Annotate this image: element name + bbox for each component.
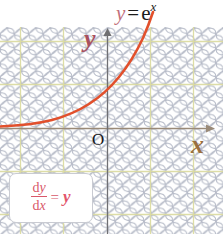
derivative-fraction: dy dx [31, 181, 46, 213]
curve-label-exponent: x [151, 0, 157, 14]
x-axis-label: x [191, 132, 204, 158]
curve-label-equals: = [125, 1, 141, 25]
curve-equation-label: y=ex [116, 1, 156, 24]
curve-label-base: e [141, 1, 150, 25]
numerator-variable: y [39, 180, 45, 195]
differential-equation-box: dy dx = y [9, 173, 93, 223]
differential-equation-content: dy dx = y [31, 181, 70, 213]
curve-label-variable: y [116, 1, 125, 25]
equation-right-side: y [63, 187, 71, 207]
denominator-variable: x [39, 198, 45, 213]
fraction-bar [31, 196, 46, 197]
equation-equals-sign: = [51, 189, 59, 206]
denominator-d: d [32, 198, 39, 213]
exponential-function-figure: y=ex y x O dy dx = y [0, 0, 223, 234]
origin-label: O [92, 131, 104, 148]
y-axis-label: y [84, 26, 96, 52]
fraction-denominator: dx [31, 199, 46, 213]
fraction-numerator: dy [31, 181, 46, 195]
numerator-d: d [32, 180, 39, 195]
